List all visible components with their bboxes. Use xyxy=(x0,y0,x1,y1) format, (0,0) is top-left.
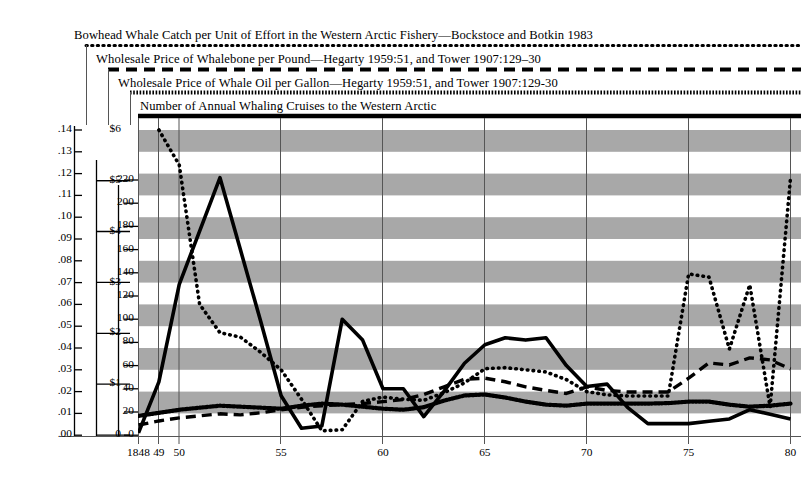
cpue-axis xyxy=(74,126,82,436)
axis-tick-label: $6 xyxy=(95,122,121,134)
axis-tick-label: 0 xyxy=(96,427,134,439)
axis-tick-label: 20 xyxy=(96,404,134,416)
axis-tick-label: 60 xyxy=(96,358,134,370)
x-tick-label: 65 xyxy=(460,446,510,458)
axis-tick-label: 140 xyxy=(96,265,134,277)
x-tick-label: 70 xyxy=(562,446,612,458)
x-tick-label: 55 xyxy=(256,446,306,458)
axis-tick-label: 80 xyxy=(96,334,134,346)
axis-tick-label: .11 xyxy=(42,187,72,199)
x-ticks xyxy=(139,436,791,444)
axis-tick-label: .10 xyxy=(42,209,72,221)
axis-tick-label: 40 xyxy=(96,381,134,393)
axis-tick-label: .07 xyxy=(42,275,72,287)
figure-root: Bowhead Whale Catch per Unit of Effort i… xyxy=(0,0,801,487)
axis-tick-label: .06 xyxy=(42,296,72,308)
plot-bands xyxy=(138,130,801,413)
x-tick-label: 60 xyxy=(358,446,408,458)
axis-tick-label: .03 xyxy=(42,362,72,374)
axis-tick-label: 160 xyxy=(96,242,134,254)
axis-tick-label: 220 xyxy=(96,172,134,184)
axis-tick-label: .12 xyxy=(42,166,72,178)
axis-tick-label: .14 xyxy=(42,122,72,134)
x-tick-label: 80 xyxy=(766,446,801,458)
axis-tick-label: .05 xyxy=(42,318,72,330)
axis-tick-label: 120 xyxy=(96,288,134,300)
axis-tick-label: 100 xyxy=(96,311,134,323)
axis-tick-label: .04 xyxy=(42,340,72,352)
x-tick-label: 75 xyxy=(664,446,714,458)
axis-tick-label: 180 xyxy=(96,218,134,230)
x-tick-label: 50 xyxy=(154,446,204,458)
axis-tick-label: .01 xyxy=(42,405,72,417)
axis-tick-label: 200 xyxy=(96,195,134,207)
axis-tick-label: .08 xyxy=(42,253,72,265)
axis-tick-label: .00 xyxy=(42,427,72,439)
axis-tick-label: .09 xyxy=(42,231,72,243)
axis-tick-label: .13 xyxy=(42,144,72,156)
axis-tick-label: .02 xyxy=(42,384,72,396)
